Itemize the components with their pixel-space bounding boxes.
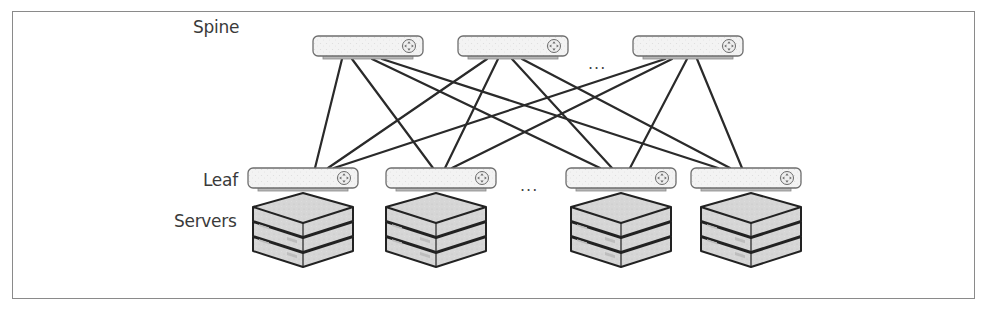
- server-stack-1-icon: [253, 193, 353, 267]
- spine-switch-2-icon: [458, 36, 568, 59]
- link-spine1-leaf2: [352, 59, 433, 168]
- leaf-switch-4-icon: [691, 168, 801, 191]
- leaf-switch-2-icon: [386, 168, 496, 191]
- link-spine1-leaf1: [315, 59, 342, 168]
- leaf-switch-1-icon: [248, 168, 358, 191]
- link-spine1-leaf4: [382, 59, 718, 168]
- link-spine3-leaf4: [697, 59, 742, 168]
- spine-switch-1-icon: [313, 36, 423, 59]
- link-spine3-leaf1: [334, 59, 665, 168]
- link-spine2-leaf2: [445, 59, 498, 168]
- server-stack-3-icon: [571, 193, 671, 267]
- link-group: [315, 59, 742, 168]
- server-stack-4-icon: [701, 193, 801, 267]
- server-stack-2-icon: [386, 193, 486, 267]
- spine-switch-3-icon: [633, 36, 743, 59]
- leaf-switch-3-icon: [566, 168, 676, 191]
- topology-canvas: [0, 0, 984, 311]
